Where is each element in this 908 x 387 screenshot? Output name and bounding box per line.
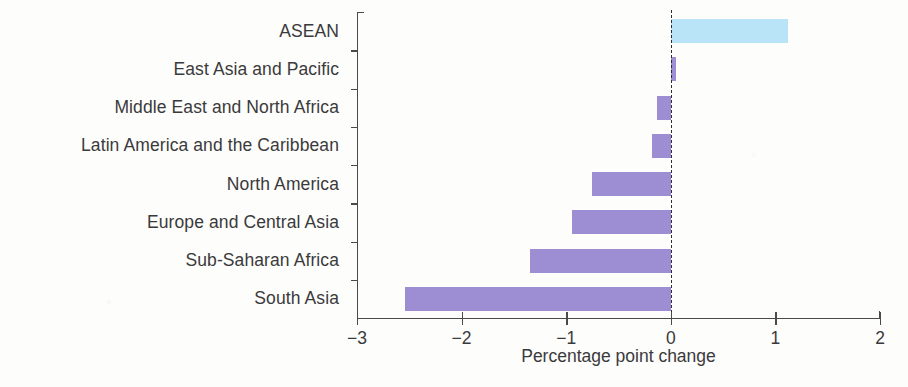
y-axis-label: Middle East and North Africa (0, 89, 348, 127)
bar-row (357, 203, 880, 241)
x-axis-tick (775, 312, 776, 325)
x-axis-line (357, 318, 880, 319)
bar-series (357, 12, 880, 318)
x-axis-tick (462, 312, 463, 325)
y-axis-label: South Asia (0, 280, 348, 318)
bar-row (357, 89, 880, 127)
x-axis-tick (671, 312, 672, 325)
y-axis-label: Europe and Central Asia (0, 203, 348, 241)
bar[interactable] (657, 96, 671, 120)
y-axis-label: Latin America and the Caribbean (0, 127, 348, 165)
bar-row (357, 50, 880, 88)
x-axis-tick (357, 312, 358, 325)
bar[interactable] (572, 210, 670, 234)
y-axis-label: North America (0, 165, 348, 203)
bar-row (357, 280, 880, 318)
y-axis-label: East Asia and Pacific (0, 50, 348, 88)
x-axis-tick (566, 312, 567, 325)
bar-row (357, 165, 880, 203)
bar-row (357, 242, 880, 280)
y-axis-label: Sub-Saharan Africa (0, 242, 348, 280)
bar[interactable] (530, 249, 671, 273)
x-axis-title: Percentage point change (357, 346, 880, 367)
x-axis-tick (880, 312, 881, 325)
plot-area: −3−2−1012 (357, 12, 880, 318)
bar-chart-figure: ASEANEast Asia and PacificMiddle East an… (0, 0, 908, 387)
zero-reference-line (671, 10, 672, 318)
bar[interactable] (652, 134, 671, 158)
y-axis-label: ASEAN (0, 12, 348, 50)
bar[interactable] (671, 19, 788, 43)
bar[interactable] (405, 287, 671, 311)
y-axis-category-labels: ASEANEast Asia and PacificMiddle East an… (0, 12, 348, 318)
bar-row (357, 127, 880, 165)
bar-row (357, 12, 880, 50)
bar[interactable] (592, 172, 670, 196)
